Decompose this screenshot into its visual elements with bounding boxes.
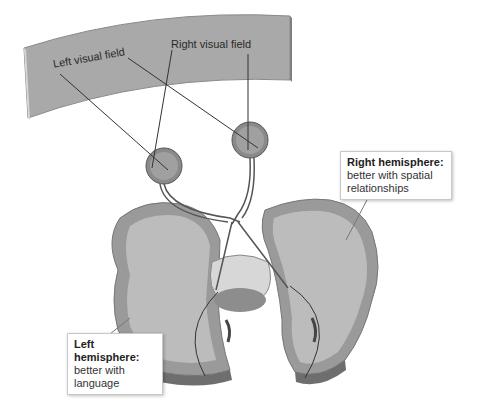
left-hemisphere-title: Left hemisphere: <box>74 338 156 364</box>
right-visual-field-label: Right visual field <box>171 38 251 50</box>
left-hemisphere-line1: better with <box>74 364 156 377</box>
right-eye <box>232 122 268 158</box>
right-hemisphere-line2: relationships <box>347 182 445 195</box>
right-hemisphere-line1: better with spatial <box>347 169 445 182</box>
right-hemisphere-title: Right hemisphere: <box>347 156 445 169</box>
left-hemisphere-line2: language <box>74 377 156 390</box>
left-hemisphere-callout: Left hemisphere: better with language <box>67 333 163 395</box>
right-hemisphere-callout: Right hemisphere: better with spatial re… <box>340 151 452 200</box>
